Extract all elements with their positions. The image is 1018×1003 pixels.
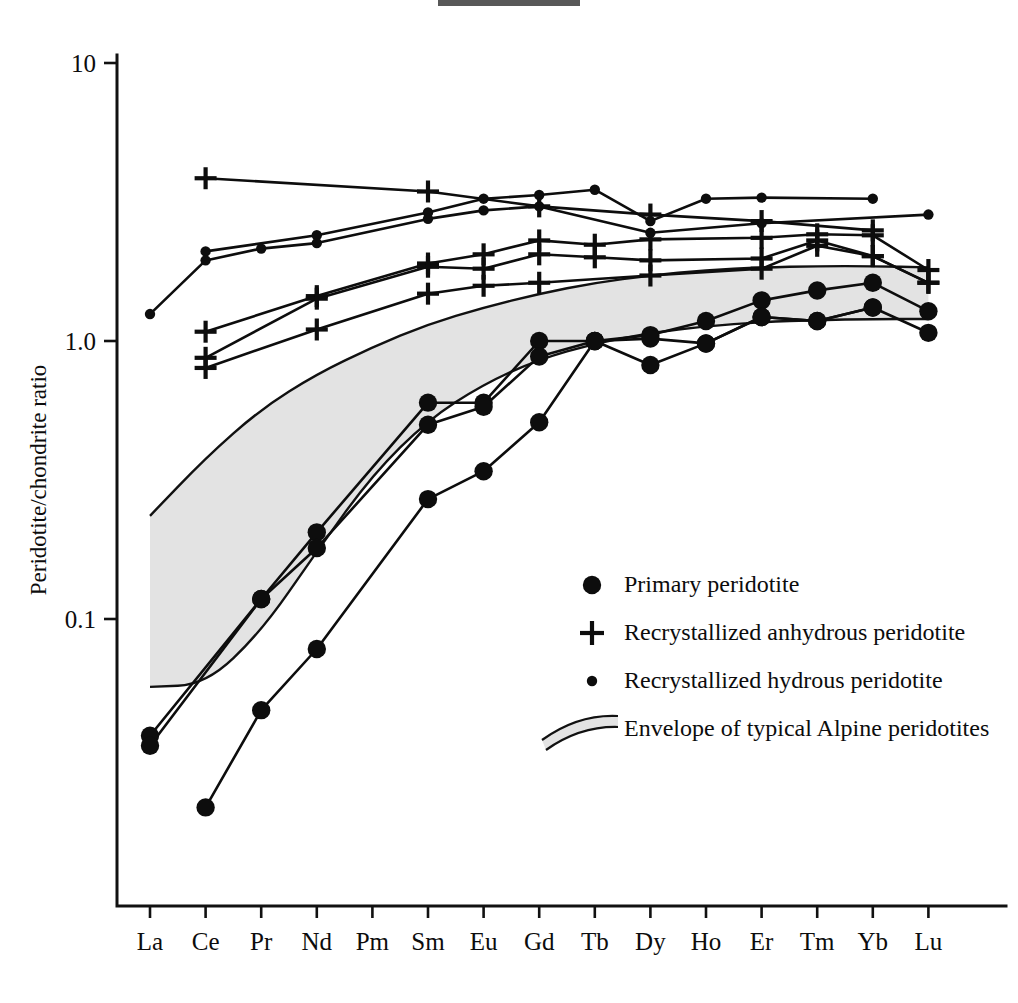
data-point-primary-peridotite [141, 737, 159, 755]
data-point-primary-peridotite [252, 701, 270, 719]
data-point-anhydrous-peridotite [417, 180, 439, 202]
chart-canvas: 101.00.1 Peridotite/chondrite ratio LaCe… [0, 0, 1018, 1003]
x-axis-tick-labels: LaCePrNdPmSmEuGdTbDyHoErTmYbLu [137, 928, 943, 955]
scan-artifact-bar [438, 0, 580, 6]
data-point-hydrous-peridotite [868, 193, 878, 203]
data-point-primary-peridotite [530, 347, 548, 365]
x-tick-label: Lu [915, 928, 943, 955]
data-point-anhydrous-peridotite [862, 224, 884, 246]
data-point-hydrous-peridotite [478, 205, 488, 215]
x-tick-label: Ce [192, 928, 220, 955]
legend-item: Envelope of typical Alpine peridotites [542, 715, 989, 750]
data-point-primary-peridotite [530, 413, 548, 431]
x-tick-label: Gd [524, 928, 555, 955]
data-point-anhydrous-peridotite [473, 275, 495, 297]
legend-marker-small-filled-circle-icon [587, 676, 597, 686]
data-point-hydrous-peridotite [145, 309, 155, 319]
data-point-hydrous-peridotite [200, 246, 210, 256]
data-point-anhydrous-peridotite [306, 288, 328, 310]
data-point-primary-peridotite [419, 415, 437, 433]
x-tick-label: La [137, 928, 163, 955]
data-point-hydrous-peridotite [256, 243, 266, 253]
data-point-anhydrous-peridotite [528, 272, 550, 294]
data-point-primary-peridotite [419, 393, 437, 411]
x-axis-ticks [150, 906, 928, 918]
data-point-hydrous-peridotite [534, 190, 544, 200]
data-point-hydrous-peridotite [645, 228, 655, 238]
data-point-primary-peridotite [419, 490, 437, 508]
x-tick-label: Tm [800, 928, 835, 955]
legend-marker-large-filled-circle-icon [583, 576, 601, 594]
data-point-primary-peridotite [919, 324, 937, 342]
data-point-primary-peridotite [752, 308, 770, 326]
data-point-anhydrous-peridotite [417, 256, 439, 278]
y-tick-label: 0.1 [65, 606, 96, 633]
data-point-primary-peridotite [308, 640, 326, 658]
x-tick-label: Yb [858, 928, 889, 955]
legend-item: Recrystallized anhydrous peridotite [580, 619, 965, 645]
y-axis-title: Peridotite/chondrite ratio [26, 365, 51, 596]
data-point-primary-peridotite [808, 281, 826, 299]
data-point-primary-peridotite [919, 302, 937, 320]
x-tick-label: Eu [470, 928, 498, 955]
x-tick-label: Er [750, 928, 774, 955]
x-tick-label: Ho [691, 928, 722, 955]
data-point-hydrous-peridotite [590, 185, 600, 195]
legend-item-label: Envelope of typical Alpine peridotites [624, 715, 989, 741]
y-tick-label: 10 [71, 50, 96, 77]
data-point-primary-peridotite [586, 332, 604, 350]
data-point-primary-peridotite [308, 523, 326, 541]
data-point-hydrous-peridotite [534, 201, 544, 211]
data-point-hydrous-peridotite [701, 193, 711, 203]
legend-item: Recrystallized hydrous peridotite [587, 667, 943, 693]
data-point-primary-peridotite [864, 298, 882, 316]
legend-item-label: Primary peridotite [624, 571, 799, 597]
y-axis-ticks [104, 63, 117, 619]
legend-item: Primary peridotite [583, 571, 799, 597]
chart-legend: Primary peridotiteRecrystallized anhydro… [542, 571, 989, 750]
data-point-anhydrous-peridotite [751, 227, 773, 249]
x-tick-label: Nd [302, 928, 333, 955]
data-point-primary-peridotite [196, 798, 214, 816]
data-point-primary-peridotite [308, 539, 326, 557]
data-point-hydrous-peridotite [923, 209, 933, 219]
data-point-anhydrous-peridotite [806, 235, 828, 257]
rare-earth-element-chart: 101.00.1 Peridotite/chondrite ratio LaCe… [0, 0, 1018, 1003]
legend-item-label: Recrystallized anhydrous peridotite [624, 619, 965, 645]
data-point-primary-peridotite [697, 334, 715, 352]
data-point-anhydrous-peridotite [862, 245, 884, 267]
data-point-anhydrous-peridotite [584, 246, 606, 268]
data-point-primary-peridotite [752, 291, 770, 309]
data-point-hydrous-peridotite [200, 255, 210, 265]
y-axis-tick-labels: 101.00.1 [65, 50, 96, 633]
data-point-primary-peridotite [641, 356, 659, 374]
data-point-hydrous-peridotite [478, 193, 488, 203]
data-point-hydrous-peridotite [756, 218, 766, 228]
data-point-anhydrous-peridotite [195, 321, 217, 343]
data-point-hydrous-peridotite [312, 238, 322, 248]
data-point-primary-peridotite [252, 590, 270, 608]
data-point-hydrous-peridotite [423, 214, 433, 224]
legend-marker-shaded-band-icon [542, 716, 618, 750]
y-tick-label: 1.0 [65, 328, 96, 355]
x-tick-label: Sm [411, 928, 445, 955]
legend-item-label: Recrystallized hydrous peridotite [624, 667, 943, 693]
legend-marker-plus-cross-icon [580, 621, 604, 645]
x-tick-label: Dy [635, 928, 666, 955]
data-point-hydrous-peridotite [756, 192, 766, 202]
data-point-primary-peridotite [808, 312, 826, 330]
data-point-primary-peridotite [864, 274, 882, 292]
x-tick-label: Pr [250, 928, 273, 955]
data-point-primary-peridotite [474, 398, 492, 416]
data-point-anhydrous-peridotite [195, 167, 217, 189]
data-point-primary-peridotite [697, 312, 715, 330]
x-tick-label: Tb [581, 928, 609, 955]
data-point-primary-peridotite [641, 329, 659, 347]
data-point-anhydrous-peridotite [528, 243, 550, 265]
x-tick-label: Pm [356, 928, 390, 955]
data-point-anhydrous-peridotite [306, 318, 328, 340]
data-point-hydrous-peridotite [645, 216, 655, 226]
data-point-primary-peridotite [474, 462, 492, 480]
data-point-anhydrous-peridotite [417, 283, 439, 305]
data-point-anhydrous-peridotite [195, 357, 217, 379]
